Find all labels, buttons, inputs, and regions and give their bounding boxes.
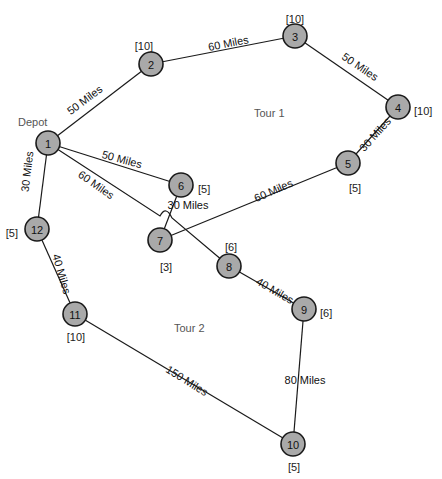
node-5: 5 [336,151,360,175]
edge-label-1-8: 60 Miles [76,168,117,202]
edge-6-1 [48,143,181,185]
demand-label-5: [5] [349,182,361,194]
edge-label-7-6: 30 Miles [168,199,209,211]
node-number: 3 [292,31,298,43]
edge-label-2-3: 60 Miles [207,33,250,53]
edge-label-9-10: 80 Miles [285,374,326,386]
node-number: 12 [31,224,43,236]
demand-label-2: [10] [135,40,153,52]
node-2: 2 [139,52,163,76]
node-number: 4 [395,102,401,114]
node-3: 3 [283,24,307,48]
depot-label: Depot [18,116,47,128]
demand-label-3: [10] [286,13,304,25]
edge-12-1 [37,143,48,229]
edge-label-11-12: 40 Miles [50,253,73,296]
demand-label-11: [10] [67,331,85,343]
depot-node: 1 [36,131,60,155]
demand-label-8: [6] [225,241,237,253]
edge-label-1-2: 50 Miles [65,82,105,117]
edge-3-4 [295,36,398,107]
demand-label-10: [5] [288,461,300,473]
demand-label-12: [5] [6,227,18,239]
node-11: 11 [63,302,87,326]
vehicle-routing-diagram: 50 Miles60 Miles50 Miles30 Miles60 Miles… [0,0,442,479]
demand-label-4: [10] [414,105,432,117]
demand-label-7: [3] [160,261,172,273]
edge-label-4-5: 30 Miles [357,115,394,154]
edge-label-3-4: 50 Miles [340,50,381,83]
demand-label-6: [5] [198,183,210,195]
node-9: 9 [292,297,316,321]
edge-1-2 [48,64,151,143]
node-number: 6 [178,180,184,192]
node-number: 7 [157,235,163,247]
edge-label-12-1: 30 Miles [19,150,36,193]
node-number: 9 [301,304,307,316]
edge-label-5-7: 60 Miles [252,176,295,204]
tour-1-label: Tour 1 [254,107,285,119]
node-12: 12 [25,217,49,241]
node-7: 7 [148,228,172,252]
tour-2-label: Tour 2 [174,322,205,334]
node-4: 4 [386,95,410,119]
node-8: 8 [217,254,241,278]
edge-label-8-9: 40 Miles [254,275,296,306]
node-number: 2 [148,59,154,71]
node-10: 10 [281,432,305,456]
node-number: 5 [345,158,351,170]
node-number: 11 [69,309,80,321]
demand-label-9: [6] [320,307,332,319]
node-number: 1 [45,138,51,150]
node-number: 10 [287,439,299,451]
edge-label-10-11: 150 Miles [164,363,211,398]
node-number: 8 [226,261,232,273]
node-6: 6 [169,173,193,197]
